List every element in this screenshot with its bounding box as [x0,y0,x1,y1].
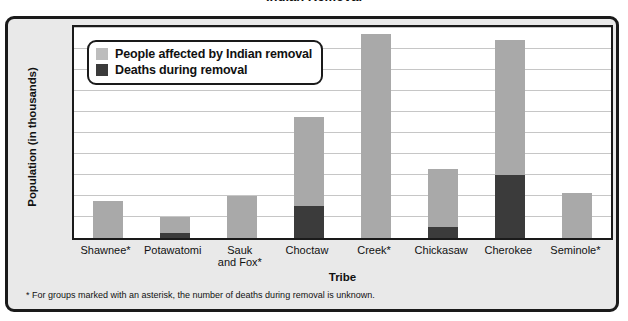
gridline [74,27,611,28]
gridline [74,153,611,154]
legend-swatch-icon [96,64,108,76]
bar-segment-deaths [160,233,190,238]
bar-creek [361,27,391,238]
bar-segment-deaths [428,227,458,238]
chart-legend: People affected by Indian removalDeaths … [87,40,323,85]
bar-chickasaw [428,27,458,238]
bar-cherokee [495,27,525,238]
y-axis-title: Population (in thousands) [26,27,38,247]
chart-title: Indian Removal [0,0,628,4]
bar-segment-people-affected [361,34,391,238]
gridline [74,216,611,217]
legend-item-label: Deaths during removal [115,63,247,77]
bar-seminole [562,27,592,238]
gridline [74,111,611,112]
chart-figure: Population (in thousands) People affecte… [5,16,619,312]
bar-segment-people-affected [160,217,190,233]
legend-swatch-icon [96,48,108,60]
bar-segment-people-affected [428,169,458,227]
bar-segment-people-affected [227,196,257,238]
x-axis-title: Tribe [72,271,613,283]
x-axis-tick-label: Seminole* [534,245,617,257]
bar-segment-people-affected [93,201,123,238]
legend-item-label: People affected by Indian removal [115,47,312,61]
gridline [74,90,611,91]
bar-segment-people-affected [294,117,324,207]
bar-segment-deaths [294,206,324,238]
legend-item: People affected by Indian removal [96,46,312,62]
plot-area: People affected by Indian removalDeaths … [72,25,613,240]
bar-segment-deaths [495,175,525,238]
gridline [74,132,611,133]
chart-footnote: * For groups marked with an asterisk, th… [26,290,375,300]
bar-segment-people-affected [495,40,525,175]
gridline [74,174,611,175]
chart-title-strip: Indian Removal [0,0,628,6]
bar-segment-people-affected [562,193,592,238]
legend-item: Deaths during removal [96,62,312,78]
gridline [74,195,611,196]
